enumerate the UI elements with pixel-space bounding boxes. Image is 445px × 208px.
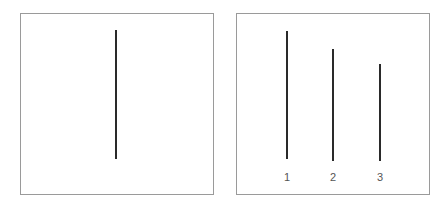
comparison-label-2: 2	[330, 172, 336, 183]
comparison-label-3: 3	[377, 172, 383, 183]
comparison-line-1	[286, 31, 288, 159]
reference-panel	[20, 13, 214, 195]
comparison-line-3	[379, 64, 381, 161]
comparison-label-1: 1	[284, 172, 290, 183]
reference-line	[115, 30, 117, 159]
comparison-line-2	[332, 49, 334, 161]
